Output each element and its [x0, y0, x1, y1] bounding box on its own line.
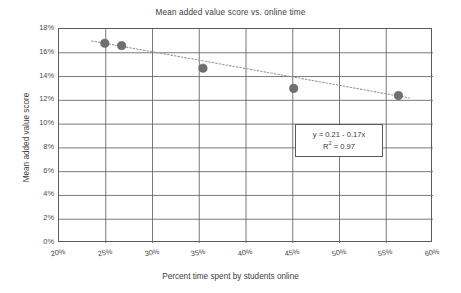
x-axis-title: Percent time spent by students online: [0, 272, 461, 281]
data-point: [199, 64, 207, 72]
x-tick-label: 40%: [225, 245, 266, 261]
x-tick-label: 60%: [412, 245, 453, 261]
x-tick-label: 45%: [271, 245, 312, 261]
x-tick-label: 55%: [365, 245, 406, 261]
data-point: [118, 42, 126, 50]
chart-title: Mean added value score vs. online time: [0, 8, 461, 17]
trend-line: [92, 41, 410, 98]
r-squared-value: = 0.97: [332, 142, 355, 151]
trend-line-group: [92, 41, 410, 98]
trendline-r-squared: R2 = 0.97: [323, 140, 355, 152]
data-point: [101, 39, 109, 47]
x-tick-label: 25%: [84, 245, 125, 261]
x-tick-label: 35%: [178, 245, 219, 261]
x-tick-label: 30%: [131, 245, 172, 261]
chart-container: Mean added value score vs. online time 0…: [0, 0, 461, 293]
data-point: [394, 91, 402, 99]
y-tick-label: 18%: [18, 23, 54, 32]
x-axis-tick-labels: 20%25%30%35%40%45%50%55%60%: [58, 248, 432, 268]
y-tick-label: 0%: [18, 237, 54, 246]
x-tick-label: 50%: [318, 245, 359, 261]
data-point: [290, 84, 298, 92]
y-axis-title: Mean added value score: [22, 58, 31, 218]
trendline-equation: y = 0.21 - 0.17x: [313, 129, 366, 140]
trendline-equation-box: y = 0.21 - 0.17x R2 = 0.97: [295, 124, 383, 157]
y-tick-label: 16%: [18, 47, 54, 56]
